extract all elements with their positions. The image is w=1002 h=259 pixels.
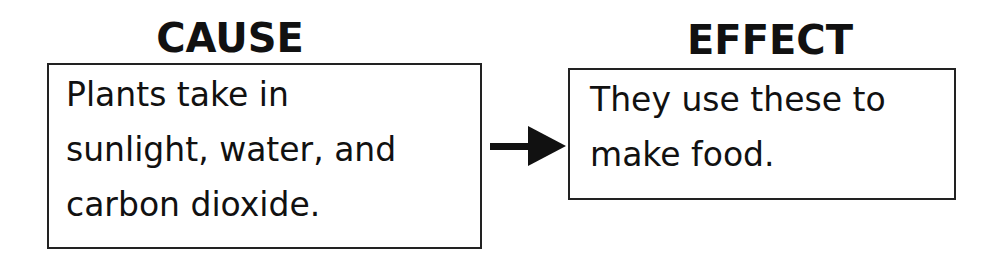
cause-heading: CAUSE bbox=[150, 16, 310, 60]
cause-box: Plants take in sunlight, water, and carb… bbox=[47, 63, 482, 249]
effect-text-line: They use these to bbox=[590, 72, 954, 127]
cause-text-line: sunlight, water, and bbox=[66, 122, 480, 177]
effect-box: They use these to make food. bbox=[568, 68, 956, 200]
effect-text-line: make food. bbox=[590, 127, 954, 182]
arrow-right-icon bbox=[488, 124, 568, 168]
cause-text-line: carbon dioxide. bbox=[66, 177, 480, 232]
cause-text-line: Plants take in bbox=[66, 67, 480, 122]
effect-heading: EFFECT bbox=[680, 18, 860, 62]
